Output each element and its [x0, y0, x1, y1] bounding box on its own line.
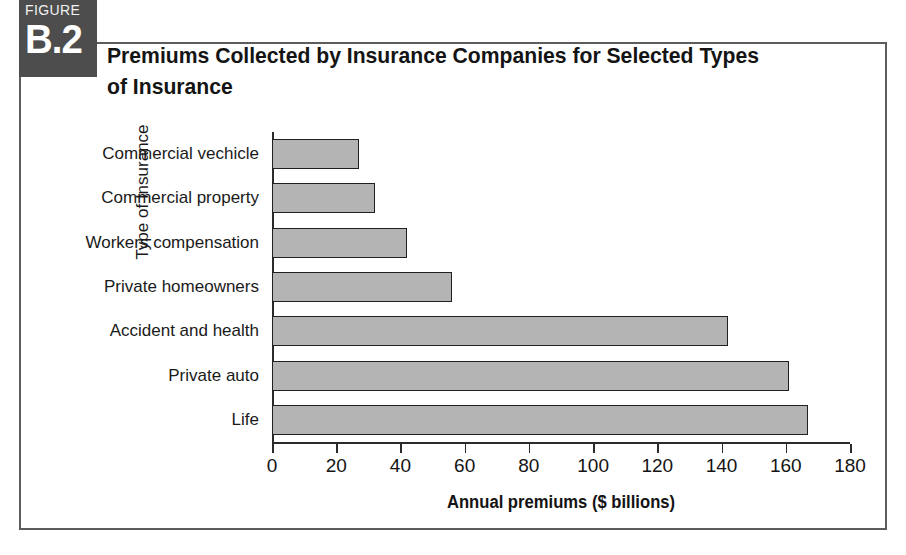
x-tick-label: 60: [454, 455, 475, 477]
x-tick-label: 180: [834, 455, 866, 477]
bar-row: Commercial vechicle: [272, 139, 850, 169]
x-tick-mark: [850, 444, 852, 453]
x-tick-label: 100: [577, 455, 609, 477]
x-tick-label: 120: [641, 455, 673, 477]
x-tick-mark: [400, 444, 402, 453]
plot-area: Commercial vechicleCommercial propertyWo…: [272, 132, 850, 442]
bar: [272, 183, 375, 213]
x-tick-mark: [336, 444, 338, 453]
x-tick-label: 20: [326, 455, 347, 477]
figure-root: FIGURE B.2 Premiums Collected by Insuran…: [0, 0, 906, 555]
x-tick-label: 160: [770, 455, 802, 477]
x-tick-mark: [722, 444, 724, 453]
x-tick-mark: [657, 444, 659, 453]
x-axis-ticks: 020406080100120140160180: [272, 444, 850, 474]
bar: [272, 361, 789, 391]
x-tick-label: 80: [518, 455, 539, 477]
bar: [272, 139, 359, 169]
category-label: Private auto: [168, 367, 259, 385]
bar-row: Life: [272, 405, 850, 435]
bar-row: Commercial property: [272, 183, 850, 213]
category-label: Life: [232, 411, 259, 429]
x-axis-title: Annual premiums ($ billions): [286, 492, 835, 513]
bar: [272, 228, 407, 258]
category-label: Commercial property: [101, 189, 259, 207]
bar-series: Commercial vechicleCommercial propertyWo…: [272, 132, 850, 442]
bar: [272, 405, 808, 435]
x-tick-mark: [272, 444, 274, 453]
bar-row: Accident and health: [272, 316, 850, 346]
x-tick-mark: [786, 444, 788, 453]
figure-badge-kicker: FIGURE: [25, 3, 97, 18]
category-label: Workers compensation: [85, 234, 259, 252]
bar-row: Workers compensation: [272, 228, 850, 258]
figure-badge-number: B.2: [25, 18, 94, 60]
x-tick-label: 40: [390, 455, 411, 477]
x-tick-label: 140: [706, 455, 738, 477]
bar: [272, 272, 452, 302]
bar-row: Private homeowners: [272, 272, 850, 302]
chart-area: Type of Insurance Commercial vechicleCom…: [19, 42, 887, 530]
bar-row: Private auto: [272, 361, 850, 391]
category-label: Private homeowners: [104, 278, 259, 296]
x-tick-mark: [593, 444, 595, 453]
x-tick-label: 0: [267, 455, 278, 477]
category-label: Commercial vechicle: [102, 145, 259, 163]
bar: [272, 316, 728, 346]
figure-number-badge: FIGURE B.2: [19, 0, 97, 77]
x-tick-mark: [465, 444, 467, 453]
category-label: Accident and health: [110, 322, 259, 340]
x-tick-mark: [529, 444, 531, 453]
